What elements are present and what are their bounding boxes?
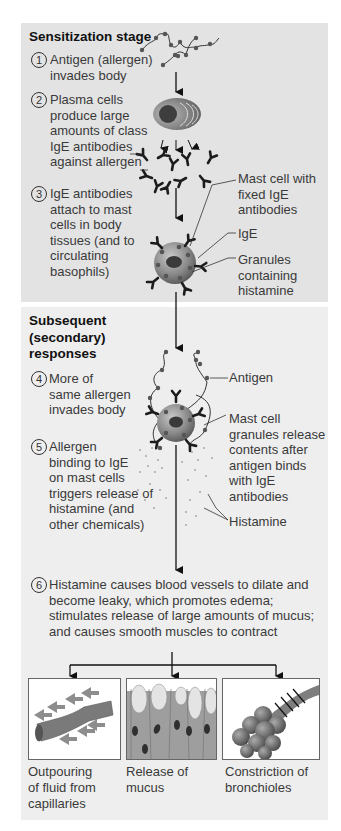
mucus-cells-icon [127, 679, 216, 759]
antigen-strand-icon [142, 34, 219, 65]
outcome-caption-2: Release of mucus [126, 764, 188, 796]
mast-cell-icon [147, 235, 206, 295]
ige-antibody-icon [137, 149, 217, 194]
plasma-cell-icon [153, 98, 201, 130]
mucus-frame [126, 678, 217, 760]
degranulating-mast-cell-icon [146, 391, 204, 451]
capillary-frame [28, 678, 121, 760]
histamine-particles-icon [137, 447, 213, 526]
bronchioles-frame [222, 678, 320, 760]
outcome-caption-3: Constriction of bronchioles [225, 764, 308, 796]
bronchioles-icon [223, 679, 319, 759]
outcome-caption-1: Outpouring of fluid from capillaries [28, 764, 96, 812]
capillary-icon [29, 679, 120, 759]
